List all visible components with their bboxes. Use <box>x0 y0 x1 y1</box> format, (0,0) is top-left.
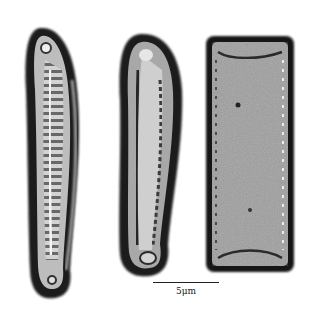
left-diatom <box>26 28 80 298</box>
scale-bar-label: 5μm <box>153 286 219 296</box>
micrograph: 5μm <box>0 0 323 321</box>
middle-diatom <box>119 34 182 276</box>
diatom-specimens <box>0 0 323 321</box>
scale-bar <box>153 282 219 283</box>
right-diatom <box>206 36 294 272</box>
